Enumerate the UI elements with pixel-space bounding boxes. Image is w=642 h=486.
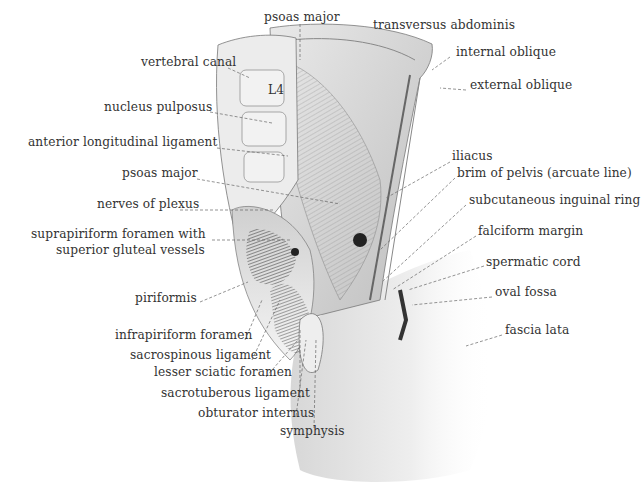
label-spermatic-cord: spermatic cord [486,255,581,269]
label-sacrospinous-ligament: sacrospinous ligament [130,348,271,362]
label-vertebral-canal: vertebral canal [141,55,236,69]
label-psoas-major-left: psoas major [122,166,198,180]
anatomy-figure: psoas major transversus abdominis intern… [0,0,642,486]
label-symphysis: symphysis [280,424,345,438]
label-nerves-of-plexus: nerves of plexus [97,197,199,211]
label-obturator-internus: obturator internus [198,406,314,420]
label-external-oblique: external oblique [470,78,572,92]
label-brim-of-pelvis: brim of pelvis (arcuate line) [457,166,632,180]
label-transversus-abdominis: transversus abdominis [373,18,515,32]
label-falciform-margin: falciform margin [478,224,583,238]
label-oval-fossa: oval fossa [495,285,557,299]
label-subcutaneous-inguinal-ring: subcutaneous inguinal ring [469,193,640,207]
label-lesser-sciatic-foramen: lesser sciatic foramen [154,365,292,379]
label-suprapiriform-foramen: suprapiriform foramen with [31,227,206,241]
label-superior-gluteal-vessels: superior gluteal vessels [56,243,205,257]
label-l4: L4 [268,83,284,97]
label-psoas-major-top: psoas major [264,10,340,24]
label-sacrotuberous-ligament: sacrotuberous ligament [161,386,310,400]
label-nucleus-pulposus: nucleus pulposus [104,100,212,114]
label-infrapiriform-foramen: infrapiriform foramen [115,328,253,342]
label-fascia-lata: fascia lata [505,323,569,337]
label-iliacus: iliacus [452,149,493,163]
label-internal-oblique: internal oblique [456,45,556,59]
label-piriformis: piriformis [135,291,197,305]
label-anterior-longitudinal-ligament: anterior longitudinal ligament [28,135,217,149]
